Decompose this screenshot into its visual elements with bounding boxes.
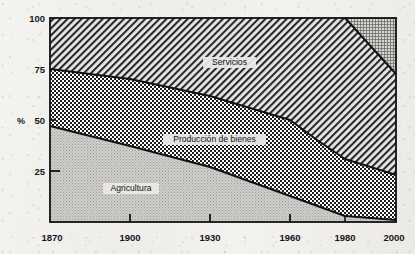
y-tick-label-25: 25 [34,166,45,177]
y-tick-label-100: 100 [29,13,45,24]
y-axis-unit-label: % [17,116,25,126]
x-tick-label-1870: 1870 [41,232,62,243]
y-tick-label-50: 50 [34,115,45,126]
series-label-produccion: Producción de bienes [163,134,266,145]
stacked-area-chart: 100 75 50 25 % 1870 1900 1930 1960 1980 … [0,0,415,254]
x-tick-label-1930: 1930 [199,232,220,243]
x-tick-label-2000: 2000 [383,232,404,243]
x-tick-label-1980: 1980 [334,232,355,243]
series-label-agricultura: Agricultura [103,183,159,194]
y-tick-label-75: 75 [34,64,45,75]
chart-container: 100 75 50 25 % 1870 1900 1930 1960 1980 … [0,0,415,254]
produccion-label-text: Producción de bienes [173,134,256,144]
x-tick-label-1960: 1960 [279,232,300,243]
x-tick-label-1900: 1900 [119,232,140,243]
agricultura-label-text: Agricultura [110,183,151,193]
plot-area [50,18,396,222]
series-label-servicios: Servicios [203,57,256,68]
servicios-label-text: Servicios [212,57,247,67]
